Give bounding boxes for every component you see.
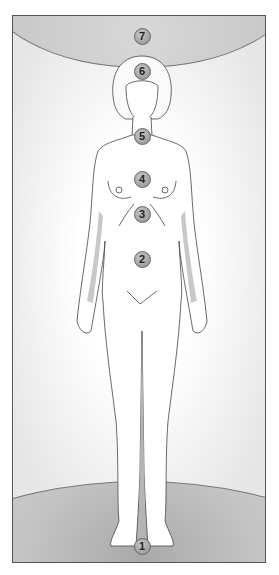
marker-4: 4 — [134, 171, 151, 188]
figure-frame — [12, 15, 266, 563]
human-figure — [13, 16, 266, 563]
marker-3: 3 — [134, 206, 151, 223]
marker-2: 2 — [134, 251, 151, 268]
marker-6: 6 — [134, 63, 151, 80]
marker-7: 7 — [134, 28, 151, 45]
marker-5: 5 — [134, 128, 151, 145]
marker-1: 1 — [134, 538, 151, 555]
